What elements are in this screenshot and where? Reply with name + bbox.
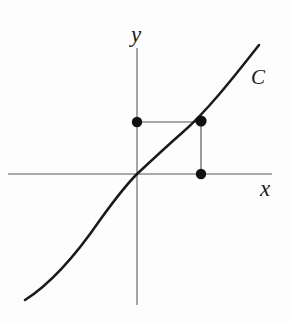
figure-canvas: y x C [0, 0, 292, 322]
x-axis-label: x [259, 176, 271, 201]
function-curve [25, 45, 259, 300]
point-on-y-axis [132, 117, 142, 127]
point-on-x-axis [196, 169, 206, 179]
graph-svg: y x C [0, 0, 292, 322]
point-on-curve [195, 115, 206, 126]
curve-name-label: C [251, 65, 266, 89]
y-axis-label: y [129, 22, 142, 47]
